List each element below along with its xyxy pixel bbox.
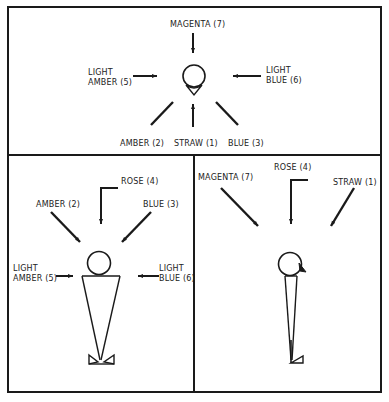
front-view-panel [51, 188, 159, 364]
arrow-blue-icon [216, 102, 238, 125]
top-view-panel [133, 33, 261, 127]
label-rose: ROSE (4) [121, 177, 158, 187]
label-magenta: MAGENTA (7) [170, 20, 225, 30]
arrow-amber-icon [151, 102, 173, 125]
label-blue: BLUE (3) [143, 200, 179, 210]
label-light-amber-line1: LIGHT [13, 264, 38, 274]
label-straw: STRAW (1) [333, 178, 377, 188]
head-top-view-icon [183, 65, 205, 95]
arrow-rose-icon [101, 188, 118, 224]
figure-front-view-icon [82, 252, 120, 365]
label-light-amber-line2: AMBER (5) [13, 274, 57, 284]
side-view-panel [221, 180, 354, 363]
arrow-blue-icon [122, 212, 151, 242]
arrow-magenta-icon [221, 188, 258, 226]
label-light-blue-line2: BLUE (6) [159, 274, 195, 284]
label-light-amber-line1: LIGHT [88, 68, 113, 78]
label-blue: BLUE (3) [228, 139, 264, 149]
lighting-diagram: MAGENTA (7) LIGHT AMBER (5) LIGHT BLUE (… [0, 0, 389, 402]
label-rose: ROSE (4) [274, 163, 311, 173]
label-amber: AMBER (2) [36, 200, 80, 210]
arrow-rose-icon [291, 180, 308, 224]
label-light-blue-line1: LIGHT [159, 264, 184, 274]
label-magenta: MAGENTA (7) [198, 173, 253, 183]
label-light-amber-line2: AMBER (5) [88, 78, 132, 88]
label-light-blue-line2: BLUE (6) [266, 76, 302, 86]
figure-side-view-icon [279, 253, 307, 364]
arrow-straw-icon [331, 188, 354, 226]
label-light-blue-line1: LIGHT [266, 66, 291, 76]
arrow-amber-icon [51, 212, 80, 242]
label-amber: AMBER (2) [120, 139, 164, 149]
label-straw: STRAW (1) [174, 139, 218, 149]
